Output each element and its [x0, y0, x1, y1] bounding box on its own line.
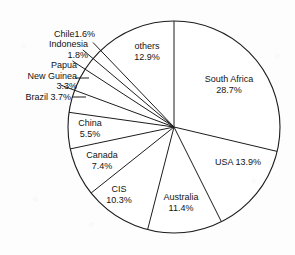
slice-label-brazil: Brazil 3.7% — [0, 92, 71, 103]
slice-label-canada: Canada 7.4% — [71, 150, 133, 171]
pie-chart-figure: South Africa 28.7% USA 13.9% Australia 1… — [0, 0, 295, 255]
slice-label-south-africa: South Africa 28.7% — [186, 74, 272, 95]
slice-label-usa: USA 13.9% — [196, 157, 280, 168]
slice-label-chile: Chile1.6% — [0, 29, 95, 40]
slice-label-cis: CIS 10.3% — [95, 184, 143, 205]
slice-label-indonesia: Indonesia 1.8% — [0, 39, 88, 60]
slice-label-others: others 12.9% — [117, 41, 177, 62]
slice-label-papua-new-guinea: Papua New Guinea 3.3% — [0, 60, 77, 92]
slice-label-australia: Australia 11.4% — [148, 192, 214, 213]
slice-label-china: China 5.5% — [62, 118, 118, 139]
